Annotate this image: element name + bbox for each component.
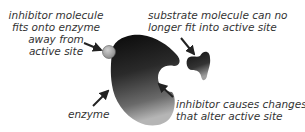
label-line: that alter active site [176,110,305,122]
label-line: away from [8,33,104,45]
label-line: longer fit into active site [148,21,288,33]
label-inhibitor-site: inhibitor molecule fits onto enzyme away… [8,9,104,57]
label-line: substrate molecule can no [148,9,288,21]
label-enzyme: enzyme [68,108,110,120]
label-substrate: substrate molecule can no longer fit int… [148,9,288,33]
enzyme-shape [111,35,180,126]
label-line: inhibitor causes changes [176,98,305,110]
inhibitor-molecule [103,46,116,59]
label-line: active site [8,45,104,57]
arrow-enzyme [93,91,108,106]
substrate-molecule [187,52,211,80]
label-inhibitor-effect: inhibitor causes changes that alter acti… [176,98,305,122]
label-line: inhibitor molecule [8,9,104,21]
arrow-substrate [181,38,194,54]
label-line: fits onto enzyme [8,21,104,33]
